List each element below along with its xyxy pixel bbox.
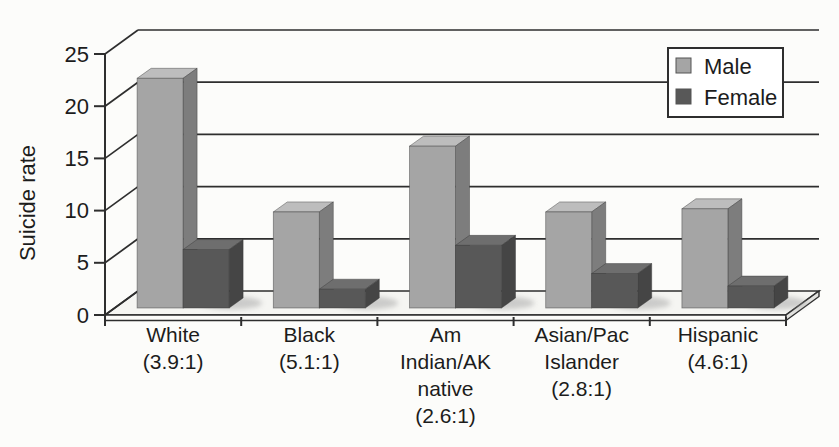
y-tick-label: 5	[77, 250, 89, 275]
figure-container: 0510152025Suicide rateWhite(3.9:1)Black(…	[0, 0, 839, 447]
bar-front-face	[546, 212, 592, 308]
bar-front-face	[592, 274, 638, 308]
suicide-rate-3d-bar-chart: 0510152025Suicide rateWhite(3.9:1)Black(…	[0, 0, 839, 447]
y-tick-label: 25	[65, 42, 89, 67]
female-bar-white	[183, 240, 243, 308]
female-bar-am-indian-ak-native	[456, 235, 516, 308]
y-tick-label: 15	[65, 146, 89, 171]
legend: MaleFemale	[668, 48, 783, 117]
bar-front-face	[273, 212, 319, 308]
legend-swatch-male-icon	[676, 58, 691, 73]
bar-side-face	[229, 240, 243, 308]
female-bar-hispanic	[728, 276, 788, 308]
bar-front-face	[456, 245, 502, 308]
legend-swatch-female-icon	[676, 89, 691, 104]
bar-front-face	[728, 286, 774, 308]
y-tick-label: 10	[65, 198, 89, 223]
y-axis-title: Suicide rate	[15, 145, 40, 261]
female-bar-black	[319, 279, 379, 308]
legend-label-male: Male	[704, 54, 752, 79]
bar-front-face	[410, 146, 456, 308]
female-bar-asian-pac-islander	[592, 264, 652, 308]
bar-side-face	[502, 235, 516, 308]
bar-front-face	[183, 250, 229, 308]
bar-front-face	[319, 289, 365, 308]
bar-front-face	[137, 78, 183, 308]
y-tick-label: 20	[65, 94, 89, 119]
y-tick-label: 0	[77, 303, 89, 328]
floor-front-face	[105, 315, 786, 321]
legend-label-female: Female	[704, 85, 777, 110]
bar-front-face	[682, 209, 728, 308]
